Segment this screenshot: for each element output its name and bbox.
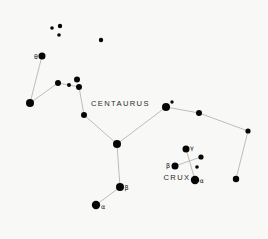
constellation-line: [117, 144, 120, 187]
constellation-line: [117, 107, 166, 144]
star-cen-e1: [162, 103, 170, 111]
star-cen-hub: [113, 140, 121, 148]
star-field-1: [50, 26, 54, 30]
star-beta-cru: [172, 163, 179, 170]
star-cen-w5: [76, 84, 82, 90]
star-cen-w1: [26, 99, 34, 107]
star-label-alpha-cru: α: [200, 177, 204, 185]
star-epsilon-cru: [195, 165, 199, 169]
star-label-alpha-cen: α: [101, 203, 105, 211]
constellation-line: [166, 107, 199, 113]
star-cen-w4: [74, 77, 80, 83]
constellation-title-centaurus: CENTAURUS: [91, 99, 150, 108]
star-cen-e4: [245, 128, 250, 133]
constellation-line: [175, 157, 201, 166]
constellation-line: [79, 87, 84, 115]
star-label-gamma-cru: γ: [190, 144, 194, 152]
star-alpha-cru: [191, 176, 199, 184]
constellation-line: [84, 115, 117, 144]
star-field-2: [58, 24, 62, 28]
star-alpha-cen: [92, 201, 100, 209]
constellation-title-crux: CRUX: [164, 173, 191, 182]
constellation-line: [96, 187, 120, 205]
star-cen-e2: [170, 100, 173, 103]
constellation-line: [236, 131, 248, 179]
drawn-layer: θβαγβα: [26, 24, 251, 211]
star-chart: θβαγβα CENTAURUS CRUX: [0, 0, 268, 239]
star-cen-e3: [196, 110, 202, 116]
constellation-line: [199, 113, 248, 131]
star-cen-w2: [55, 80, 61, 86]
star-beta-cen: [116, 183, 124, 191]
star-label-beta-cen: β: [125, 184, 129, 192]
constellation-centaurus: θβα: [26, 53, 251, 211]
star-theta-cen: [39, 53, 46, 60]
star-field-4: [99, 38, 103, 42]
star-label-beta-cru: β: [166, 162, 170, 170]
star-cen-c1: [81, 112, 87, 118]
star-delta-cru: [198, 154, 203, 159]
star-label-theta-cen: θ: [34, 53, 38, 61]
star-field-3: [57, 33, 61, 37]
star-cen-e5: [233, 176, 239, 182]
star-cen-w3: [67, 83, 71, 87]
constellation-map: θβαγβα CENTAURUS CRUX: [0, 0, 268, 239]
star-gamma-cru: [183, 146, 190, 153]
